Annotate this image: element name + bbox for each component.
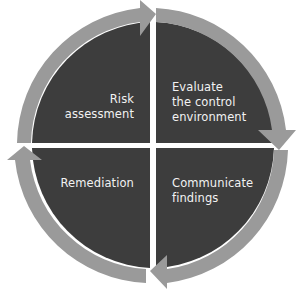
cycle-graphic <box>0 0 301 289</box>
label-evaluate-control-environment: Evaluate the control environment <box>172 80 282 125</box>
label-remediation: Remediation <box>40 176 134 191</box>
label-risk-assessment: Risk assessment <box>60 92 134 122</box>
quadrant-bottom-left <box>32 148 150 268</box>
cycle-diagram: Risk assessment Evaluate the control env… <box>0 0 301 289</box>
quadrant-bottom-right <box>156 148 274 268</box>
label-communicate-findings: Communicate findings <box>172 176 282 206</box>
quadrant-top-left <box>32 22 150 143</box>
